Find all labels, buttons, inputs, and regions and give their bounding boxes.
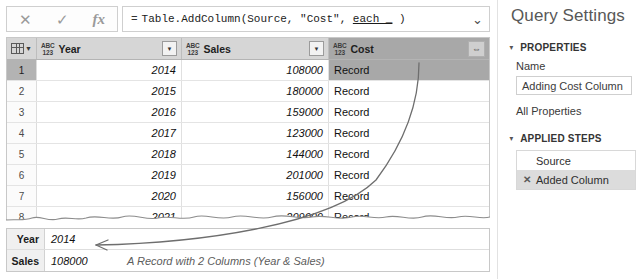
formula-bar-buttons: ✕ ✓ fx — [6, 6, 118, 32]
custom-step-icon: ✕ — [523, 174, 531, 185]
properties-header-label: PROPERTIES — [520, 42, 586, 53]
preview-key: Year — [7, 229, 45, 249]
cell-year[interactable]: 2017 — [37, 123, 182, 143]
row-number: 8 — [7, 207, 37, 223]
column-header-label: Year — [58, 43, 160, 55]
row-number: 1 — [7, 60, 37, 80]
column-header-label: Sales — [203, 43, 307, 55]
cell-year[interactable]: 2020 — [37, 186, 182, 206]
applied-steps-header-label: APPLIED STEPS — [520, 133, 602, 144]
type-abc123-icon: ABC 123 — [333, 42, 346, 56]
row-number: 6 — [7, 165, 37, 185]
fx-icon[interactable]: fx — [89, 12, 110, 27]
formula-input[interactable]: = Table.AddColumn(Source, "Cost", each _… — [122, 6, 490, 32]
row-number: 7 — [7, 186, 37, 206]
cell-year[interactable]: 2018 — [37, 144, 182, 164]
expand-columns-icon[interactable]: ⇔ — [468, 41, 485, 57]
cell-cost[interactable]: Record — [329, 102, 489, 122]
type-icon-bottom: 123 — [333, 49, 346, 56]
triangle-down-icon: ▼ — [508, 135, 514, 142]
type-icon-bottom: 123 — [41, 49, 54, 56]
filter-dropdown-icon[interactable]: ▼ — [309, 41, 324, 56]
type-icon-top: ABC — [41, 42, 54, 49]
applied-steps-section-header[interactable]: ▼ APPLIED STEPS — [508, 133, 626, 144]
formula-suffix: ) — [392, 13, 405, 25]
type-icon-bottom: 123 — [186, 49, 199, 56]
query-name-input[interactable]: Adding Cost Column — [516, 76, 632, 95]
column-header-year[interactable]: ABC 123 Year ▼ — [37, 38, 182, 59]
table-row[interactable]: 3 2016 159000 Record — [7, 102, 489, 123]
query-settings-panel: Query Settings ▼ PROPERTIES Name Adding … — [497, 0, 634, 279]
chevron-down-icon[interactable]: ⌄ — [466, 12, 485, 27]
type-icon-top: ABC — [186, 42, 199, 49]
cell-year[interactable]: 2014 — [37, 60, 182, 80]
cell-cost[interactable]: Record — [329, 144, 489, 164]
cell-cost[interactable]: Record — [329, 60, 489, 80]
row-number: 5 — [7, 144, 37, 164]
cell-year[interactable]: 2021 — [37, 207, 182, 223]
cell-sales[interactable]: 209000 — [182, 207, 329, 223]
column-header-sales[interactable]: ABC 123 Sales ▼ — [182, 38, 329, 59]
cell-cost[interactable]: Record — [329, 186, 489, 206]
formula-equals-sign: = — [131, 13, 138, 25]
preview-row-year: Year 2014 — [7, 229, 489, 250]
table-row[interactable]: 8 2021 209000 Record — [7, 207, 489, 223]
cell-sales[interactable]: 159000 — [182, 102, 329, 122]
cell-year[interactable]: 2019 — [37, 165, 182, 185]
preview-key: Sales — [7, 250, 45, 271]
cell-sales[interactable]: 108000 — [182, 60, 329, 80]
formula-text: Table.AddColumn(Source, "Cost", each _ ) — [142, 13, 466, 25]
check-icon[interactable]: ✓ — [52, 12, 73, 27]
column-header-cost[interactable]: ABC 123 Cost ⇔ — [329, 38, 489, 59]
table-row[interactable]: 5 2018 144000 Record — [7, 144, 489, 165]
cell-sales[interactable]: 144000 — [182, 144, 329, 164]
applied-step-label: Source — [536, 155, 571, 167]
all-properties-link[interactable]: All Properties — [516, 105, 626, 117]
cell-cost[interactable]: Record — [329, 165, 489, 185]
page-title: Query Settings — [511, 6, 626, 26]
table-glyph — [11, 43, 24, 54]
formula-underlined: each _ — [353, 13, 393, 25]
table-row[interactable]: 7 2020 156000 Record — [7, 186, 489, 207]
row-number: 4 — [7, 123, 37, 143]
record-preview-pane: Year 2014 Sales 108000 A Record with 2 C… — [6, 228, 490, 272]
grid-header-row: ▼ ABC 123 Year ▼ ABC 123 Sales ▼ ABC 123 — [7, 38, 489, 60]
preview-row-sales: Sales 108000 A Record with 2 Columns (Ye… — [7, 250, 489, 271]
column-header-label: Cost — [350, 43, 468, 55]
formula-prefix: Table.AddColumn(Source, "Cost", — [142, 13, 353, 25]
select-all-table-icon[interactable]: ▼ — [7, 38, 37, 59]
preview-annotation-text: A Record with 2 Columns (Year & Sales) — [125, 250, 325, 271]
table-row[interactable]: 1 2014 108000 Record — [7, 60, 489, 81]
applied-steps-list: Source ✕ Added Column — [516, 150, 636, 190]
cell-sales[interactable]: 156000 — [182, 186, 329, 206]
applied-step-source[interactable]: Source — [517, 151, 635, 170]
preview-value: 108000 — [45, 250, 125, 271]
properties-section-header[interactable]: ▼ PROPERTIES — [508, 42, 626, 53]
query-name-value: Adding Cost Column — [522, 80, 623, 92]
cell-sales[interactable]: 123000 — [182, 123, 329, 143]
cell-sales[interactable]: 180000 — [182, 81, 329, 101]
data-grid: ▼ ABC 123 Year ▼ ABC 123 Sales ▼ ABC 123 — [6, 37, 490, 223]
table-row[interactable]: 2 2015 180000 Record — [7, 81, 489, 102]
cell-cost[interactable]: Record — [329, 81, 489, 101]
type-abc123-icon: ABC 123 — [41, 42, 54, 56]
close-icon[interactable]: ✕ — [15, 12, 36, 27]
cell-cost[interactable]: Record — [329, 207, 489, 223]
cell-cost[interactable]: Record — [329, 123, 489, 143]
table-row[interactable]: 6 2019 201000 Record — [7, 165, 489, 186]
filter-dropdown-icon[interactable]: ▼ — [162, 41, 177, 56]
formula-bar: ✕ ✓ fx = Table.AddColumn(Source, "Cost",… — [6, 6, 490, 32]
triangle-down-icon: ▼ — [508, 44, 514, 51]
table-row[interactable]: 4 2017 123000 Record — [7, 123, 489, 144]
type-abc123-icon: ABC 123 — [186, 42, 199, 56]
type-icon-top: ABC — [333, 42, 346, 49]
cell-year[interactable]: 2015 — [37, 81, 182, 101]
cell-sales[interactable]: 201000 — [182, 165, 329, 185]
applied-step-added-column[interactable]: ✕ Added Column — [517, 170, 635, 189]
chevron-down-icon: ▼ — [25, 45, 32, 52]
cell-year[interactable]: 2016 — [37, 102, 182, 122]
preview-value: 2014 — [45, 229, 125, 249]
row-number: 3 — [7, 102, 37, 122]
row-number: 2 — [7, 81, 37, 101]
applied-step-label: Added Column — [536, 174, 609, 186]
